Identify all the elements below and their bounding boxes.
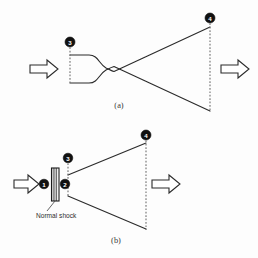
nozzle-flow-figure: 3 4 (a) [0,0,258,258]
panel-b-station-4-marker: 4 [141,130,151,140]
panel-b-group: Normal shock 1 2 3 [14,130,180,245]
panel-b-lower-wall [68,196,146,229]
figure-container: 3 4 (a) [0,0,258,258]
panel-a-lower-wall [70,67,210,112]
normal-shock-band [52,168,60,201]
panel-b-inlet-flow-arrow-icon [14,175,39,193]
panel-b-outlet-flow-arrow-icon [152,175,180,193]
panel-b-upper-wall [68,143,146,175]
panel-a-caption: (a) [114,101,124,110]
panel-a-station-3-label: 3 [68,39,72,46]
panel-a-upper-wall [70,27,210,72]
panel-b-station-3-label: 3 [66,155,70,162]
panel-b-station-3-marker: 3 [63,153,73,163]
panel-b-station-1-marker: 1 [39,179,49,189]
normal-shock-leader-line [47,201,55,211]
panel-b-caption: (b) [111,236,121,245]
panel-a-group: 3 4 (a) [30,13,249,112]
panel-b-station-1-label: 1 [42,181,46,188]
panel-a-station-4-marker: 4 [205,13,215,23]
panel-a-station-3-marker: 3 [65,37,75,47]
panel-a-station-4-label: 4 [208,15,212,22]
panel-b-station-4-label: 4 [144,132,148,139]
panel-b-station-2-label: 2 [63,181,67,188]
panel-a-inlet-flow-arrow-icon [30,60,58,78]
normal-shock-label: Normal shock [36,212,77,219]
panel-a-outlet-flow-arrow-icon [221,60,249,78]
panel-b-station-2-marker: 2 [60,179,70,189]
